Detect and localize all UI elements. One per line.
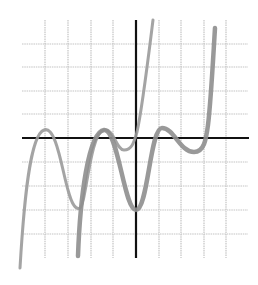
- function-graph: [0, 0, 258, 285]
- curve-a: [20, 20, 153, 268]
- curves: [20, 20, 215, 268]
